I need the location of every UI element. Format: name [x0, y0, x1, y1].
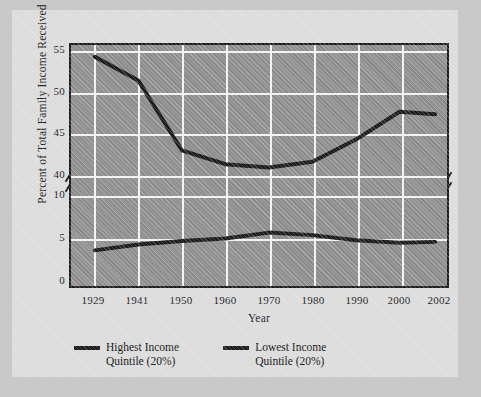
y-tick-label-5: 5 — [25, 232, 65, 243]
x-tick-label-1929: 1929 — [81, 294, 104, 306]
legend-label-highest-line2: Quintile (20%) — [106, 354, 179, 368]
plot-area — [69, 43, 449, 288]
series-lines — [71, 45, 447, 286]
legend-line-swatch-icon — [74, 346, 100, 350]
legend-item-lowest-quintile: Lowest Income Quintile (20%) — [223, 340, 326, 368]
figure-page: Percent of Total Family Income Received … — [0, 0, 481, 397]
x-tick-label-1970: 1970 — [257, 294, 280, 306]
x-tick-label-2000: 2000 — [387, 294, 410, 306]
line-highest-quintile — [95, 57, 435, 168]
legend-label-highest-line1: Highest Income — [106, 340, 179, 354]
legend-item-highest-quintile: Highest Income Quintile (20%) — [74, 340, 179, 368]
legend-label-lowest: Lowest Income Quintile (20%) — [255, 340, 326, 368]
y-axis-tick-labels: 555045401050 — [20, 43, 65, 288]
legend-label-highest: Highest Income Quintile (20%) — [106, 340, 179, 368]
y-tick-label-50: 50 — [25, 86, 65, 97]
legend-line-swatch-icon — [223, 346, 249, 350]
line-lowest-quintile — [95, 233, 435, 251]
y-tick-label-40: 40 — [25, 169, 65, 180]
y-tick-label-10: 10 — [25, 189, 65, 200]
x-axis-title: Year — [69, 312, 449, 324]
legend-label-lowest-line1: Lowest Income — [255, 340, 326, 354]
x-tick-label-1990: 1990 — [345, 294, 368, 306]
y-tick-label-55: 55 — [25, 44, 65, 55]
legend-label-lowest-line2: Quintile (20%) — [255, 354, 326, 368]
x-tick-label-1941: 1941 — [125, 294, 148, 306]
x-tick-label-1960: 1960 — [213, 294, 236, 306]
chart-legend: Highest Income Quintile (20%) Lowest Inc… — [74, 340, 326, 368]
x-axis-tick-labels: 192919411950196019701980199020002002 — [69, 294, 449, 310]
figure-panel: Percent of Total Family Income Received … — [12, 10, 458, 377]
x-tick-label-1950: 1950 — [169, 294, 192, 306]
y-tick-label-45: 45 — [25, 127, 65, 138]
x-tick-label-1980: 1980 — [301, 294, 324, 306]
x-tick-label-2002: 2002 — [427, 294, 450, 306]
y-tick-label-0: 0 — [25, 275, 65, 286]
